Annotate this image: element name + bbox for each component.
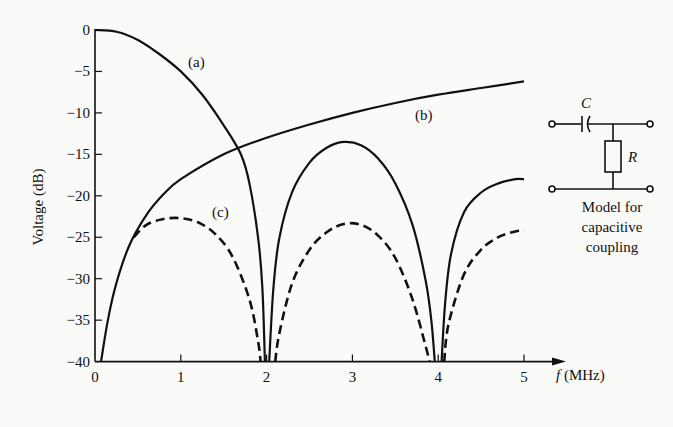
curve-a (95, 30, 265, 362)
x-axis-label-unit: (MHz) (560, 367, 605, 384)
y-tick-label: −15 (67, 146, 90, 162)
x-tick-label: 4 (434, 369, 442, 385)
x-tick-label: 3 (349, 369, 357, 385)
curve-c (444, 231, 524, 362)
resistor-label: R (627, 149, 637, 165)
y-tick-label: 0 (83, 22, 91, 38)
chart: 0−5−10−15−20−25−30−35−40012345 (a) (b) (… (0, 0, 673, 427)
curve-c (134, 218, 261, 362)
terminal-bottom-right (647, 186, 653, 192)
y-tick-label: −30 (67, 271, 90, 287)
terminal-bottom-left (549, 186, 555, 192)
x-tick-label: 0 (91, 369, 99, 385)
terminal-top-right (647, 121, 653, 127)
curve-solidlobes (442, 179, 524, 362)
axes: 0−5−10−15−20−25−30−35−40012345 (67, 22, 566, 385)
x-axis-arrow-icon (552, 358, 566, 366)
x-tick-label: 2 (263, 369, 271, 385)
resistor (605, 141, 621, 172)
x-tick-label: 5 (520, 369, 528, 385)
caption-line-3: coupling (586, 239, 639, 255)
curves (95, 30, 524, 362)
label-b: (b) (415, 107, 433, 124)
y-tick-label: −25 (67, 229, 90, 245)
label-a: (a) (188, 54, 205, 71)
y-tick-label: −35 (67, 312, 90, 328)
y-tick-label: −10 (67, 105, 90, 121)
x-axis-label: f (MHz) (556, 367, 605, 384)
capacitor-label: C (581, 95, 592, 111)
curve-c (275, 223, 429, 361)
curve-solidlobes (269, 142, 435, 362)
label-c: (c) (212, 204, 229, 221)
y-tick-label: −5 (74, 63, 90, 79)
y-axis-label: Voltage (dB) (30, 169, 47, 246)
caption-line-2: capacitive (582, 219, 643, 235)
circuit-inset (549, 116, 653, 192)
terminal-top-left (549, 121, 555, 127)
caption-line-1: Model for (582, 199, 642, 215)
y-tick-label: −40 (67, 354, 90, 370)
x-tick-label: 1 (177, 369, 185, 385)
y-tick-label: −20 (67, 188, 90, 204)
